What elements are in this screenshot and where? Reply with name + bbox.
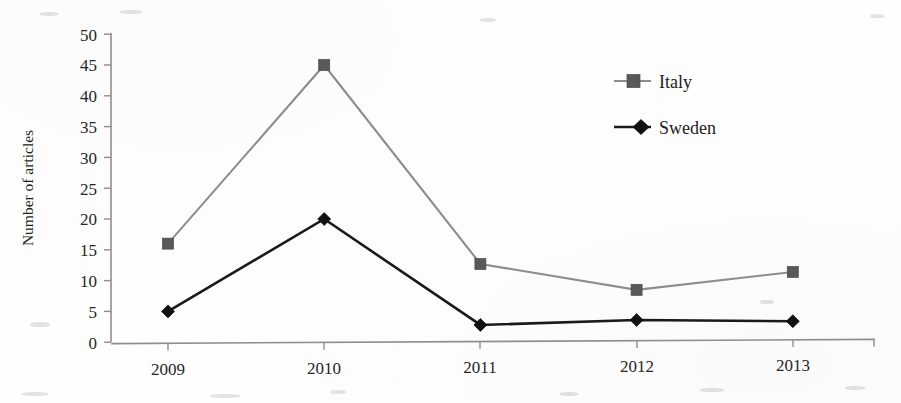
- scan-speck: [560, 392, 578, 396]
- y-tick-label-10: 10: [80, 272, 97, 291]
- scan-speck: [330, 390, 346, 394]
- scan-speck: [210, 394, 240, 398]
- data-point-italy-2013: [787, 266, 798, 277]
- y-tick-label-40: 40: [80, 87, 97, 106]
- y-axis-title: Number of articles: [19, 130, 36, 246]
- y-tick-label-45: 45: [80, 56, 97, 75]
- legend-marker-diamond-sweden: [633, 120, 649, 135]
- y-tick-label-15: 15: [80, 241, 97, 260]
- x-tick-label-2010: 2010: [307, 359, 341, 378]
- chart-legend: Italy Sweden: [614, 72, 716, 138]
- line-chart-figure: 50 45 40 35 30 25 20 15 10 5 0 Number of…: [0, 0, 901, 403]
- scan-speck: [30, 322, 50, 327]
- data-point-italy-2011: [475, 258, 486, 269]
- legend-entry-italy[interactable]: Italy: [614, 72, 692, 92]
- scan-speck: [845, 386, 865, 390]
- scan-speck: [480, 18, 496, 22]
- y-tick-label-35: 35: [80, 118, 97, 137]
- scan-speck: [760, 300, 774, 304]
- chart-canvas: 50 45 40 35 30 25 20 15 10 5 0 Number of…: [0, 0, 901, 403]
- scan-speck: [870, 14, 884, 18]
- y-axis: [104, 33, 111, 342]
- legend-marker-square-italy: [627, 75, 640, 88]
- scan-speck: [700, 388, 724, 392]
- y-tick-label-30: 30: [80, 149, 97, 168]
- y-tick-label-5: 5: [89, 303, 98, 322]
- data-point-sweden-2013: [786, 315, 799, 328]
- legend-entry-sweden[interactable]: Sweden: [614, 118, 716, 138]
- data-point-sweden-2009: [162, 305, 175, 318]
- y-tick-label-50: 50: [80, 26, 97, 45]
- x-tick-labels: 2009 2010 2011 2012 2013: [151, 356, 810, 379]
- data-point-italy-2009: [163, 238, 174, 249]
- y-tick-label-0: 0: [89, 334, 98, 353]
- legend-label-sweden: Sweden: [659, 118, 716, 138]
- y-tick-label-25: 25: [80, 180, 97, 199]
- scan-speck: [22, 392, 48, 396]
- x-tick-label-2011: 2011: [463, 358, 496, 377]
- series-markers-sweden: [162, 213, 800, 332]
- x-tick-label-2013: 2013: [776, 356, 810, 375]
- series-line-sweden: [168, 219, 793, 325]
- scan-speck: [40, 12, 58, 16]
- y-tick-label-20: 20: [80, 210, 97, 229]
- scan-speck: [120, 10, 142, 14]
- data-point-italy-2012: [631, 284, 642, 295]
- x-axis: [111, 339, 875, 350]
- legend-label-italy: Italy: [659, 72, 692, 92]
- x-tick-label-2009: 2009: [151, 360, 185, 379]
- data-point-sweden-2012: [630, 314, 643, 327]
- data-point-italy-2010: [319, 60, 330, 71]
- x-tick-label-2012: 2012: [620, 357, 654, 376]
- y-tick-labels: 50 45 40 35 30 25 20 15 10 5 0: [80, 26, 97, 353]
- series-markers-italy: [163, 60, 799, 296]
